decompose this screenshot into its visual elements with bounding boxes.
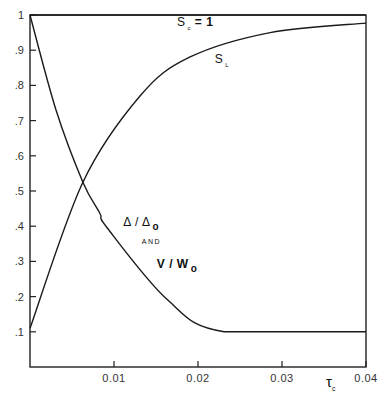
y-tick-label: .4	[15, 220, 24, 232]
x-tick-label: 0.03	[270, 372, 293, 384]
y-tick-label: 1	[18, 9, 24, 21]
x-tick-label: 0.04	[354, 372, 377, 384]
x-axis: 0.010.020.030.04	[102, 361, 377, 384]
annotation-label: Δ / Δo	[123, 215, 159, 232]
y-tick-label: .3	[15, 255, 24, 267]
series-line	[30, 15, 366, 332]
plot-border	[30, 15, 366, 367]
chart: .1.2.3.4.5.6.7.8.91 0.010.020.030.04 Sc …	[0, 0, 392, 403]
x-axis-label: τc	[326, 373, 336, 392]
x-tick-label: 0.02	[186, 372, 209, 384]
series-layer	[30, 15, 366, 332]
y-tick-label: .9	[15, 44, 24, 56]
plot-frame	[30, 15, 366, 367]
y-tick-label: .5	[15, 185, 24, 197]
y-tick-label: .1	[15, 326, 24, 338]
annotation-label: V / Wo	[157, 257, 197, 274]
y-tick-label: .8	[15, 79, 24, 91]
annotation-layer: Sc = 1SLΔ / ΔoANDV / Wo	[123, 15, 229, 275]
y-tick-label: .6	[15, 150, 24, 162]
annotation-label: SL	[215, 52, 230, 68]
annotation-label: AND	[142, 238, 161, 245]
y-tick-label: .2	[15, 291, 24, 303]
y-axis: .1.2.3.4.5.6.7.8.91	[15, 9, 36, 338]
y-tick-label: .7	[15, 115, 24, 127]
x-axis-label-text: τc	[326, 373, 336, 392]
x-tick-label: 0.01	[102, 372, 125, 384]
annotation-label: Sc = 1	[177, 15, 213, 31]
